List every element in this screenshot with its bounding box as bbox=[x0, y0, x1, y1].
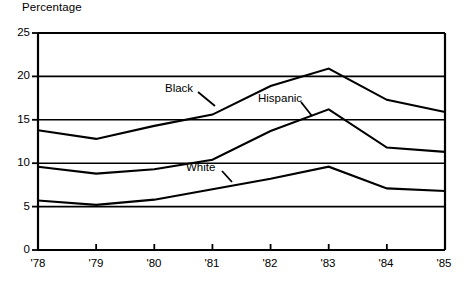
annotation-leader-lines bbox=[198, 92, 312, 182]
leader-line-2 bbox=[222, 171, 232, 182]
axis-frame bbox=[38, 33, 445, 250]
plot-area bbox=[0, 0, 469, 282]
series-line-black bbox=[38, 69, 445, 139]
chart-container: Percentage 25 20 15 10 5 0 '78 '79 '80 '… bbox=[0, 0, 469, 282]
leader-line-1 bbox=[301, 102, 312, 116]
series-lines bbox=[38, 69, 445, 205]
gridlines bbox=[38, 33, 445, 207]
leader-line-0 bbox=[198, 92, 215, 106]
